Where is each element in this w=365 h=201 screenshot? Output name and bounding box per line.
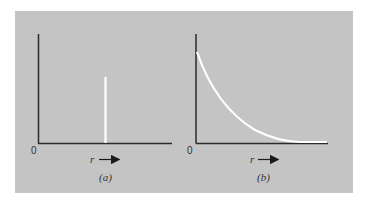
plot-b: 0 r (b)	[187, 34, 328, 184]
x-axis-label-b: r	[250, 153, 255, 165]
decay-curve-b	[197, 52, 327, 142]
plot-a: 0 r (a)	[31, 34, 172, 184]
origin-label-b: 0	[187, 145, 193, 156]
x-axis-label-a: r	[90, 153, 95, 165]
caption-b: (b)	[257, 171, 270, 184]
caption-a: (a)	[99, 171, 112, 184]
origin-label-a: 0	[31, 145, 37, 156]
figure: 0 r (a) 0 r (b)	[0, 0, 365, 201]
